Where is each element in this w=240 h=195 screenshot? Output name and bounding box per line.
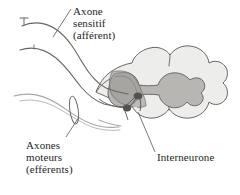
label-motor-axons-line2: moteurs: [26, 152, 73, 164]
label-interneuron-line1: Interneurone: [157, 152, 214, 164]
interneuron-soma: [134, 92, 143, 99]
reflex-arc-figure: Axone sensitif (afférent) Axones moteurs…: [0, 0, 240, 195]
peripheral-nerve-marker: [68, 96, 80, 125]
label-sensory-axon: Axone sensitif (afférent): [73, 6, 115, 41]
label-interneuron: Interneurone: [157, 152, 214, 164]
motor-axons: [14, 94, 121, 130]
leader-line-sensory-axon: [53, 9, 71, 37]
label-sensory-axon-line3: (afférent): [73, 30, 115, 42]
label-motor-axons-line3: (efférents): [26, 164, 73, 176]
label-motor-axons: Axones moteurs (efférents): [26, 140, 73, 175]
label-sensory-axon-line2: sensitif: [73, 18, 115, 30]
